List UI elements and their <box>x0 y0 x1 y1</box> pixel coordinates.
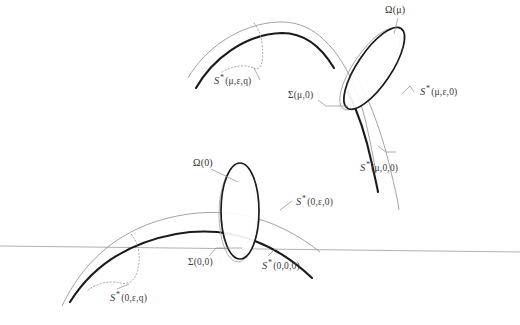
upper-dotted-arc-segment-right <box>254 23 263 69</box>
lower-ellipse-omega0 <box>221 163 259 259</box>
label-s-0-0-0: S*(0,0,0) <box>262 258 300 271</box>
label-omega-mu: Ω(μ) <box>385 4 405 15</box>
label-s-0-eps-q: S*(0,ε,q) <box>110 290 147 303</box>
label-s-mu-eps-0: S*(μ,ε,0) <box>420 84 457 97</box>
lower-dotted-arc-segment-right <box>120 233 139 284</box>
leader-line-s000 <box>268 249 275 256</box>
horizontal-axis-line <box>0 246 520 252</box>
upper-dotted-arc-segment-left <box>222 66 254 72</box>
label-s-mu-eps-q: S*(μ,ε,q) <box>214 73 251 86</box>
label-s-0-eps-0: S*(0,ε,0) <box>296 194 333 207</box>
label-s-mu-eps-0-args: (μ,ε,0) <box>431 87 457 97</box>
label-sigma-0-0: Σ(0,0) <box>188 257 213 267</box>
label-s-mu-0-0: S*(μ,0,0) <box>360 160 398 173</box>
label-s-mu-eps-q-args: (μ,ε,q) <box>225 76 251 86</box>
label-omega-0: Ω(0) <box>193 157 213 168</box>
leader-line-smueps0 <box>402 86 414 94</box>
diagram-vector-layer <box>0 0 520 325</box>
leader-line-s0epsq <box>117 284 129 289</box>
diagram-canvas: Ω(μ) Σ(μ,0) S*(μ,ε,q) S*(μ,ε,0) S*(μ,0,0… <box>0 0 520 325</box>
label-sigma-mu-0: Σ(μ,0) <box>288 90 313 100</box>
label-s-0-eps-q-args: (0,ε,q) <box>121 293 147 303</box>
label-s-mu-0-0-args: (μ,0,0) <box>371 163 398 173</box>
label-s-0-0-0-args: (0,0,0) <box>273 261 300 271</box>
leader-line-smuepsq <box>254 68 260 80</box>
lower-dotted-arc-segment-left <box>88 282 120 290</box>
leader-line-s0eps0 <box>280 201 292 210</box>
leader-line-smu00 <box>378 146 396 152</box>
label-s-0-eps-0-args: (0,ε,0) <box>307 197 333 207</box>
